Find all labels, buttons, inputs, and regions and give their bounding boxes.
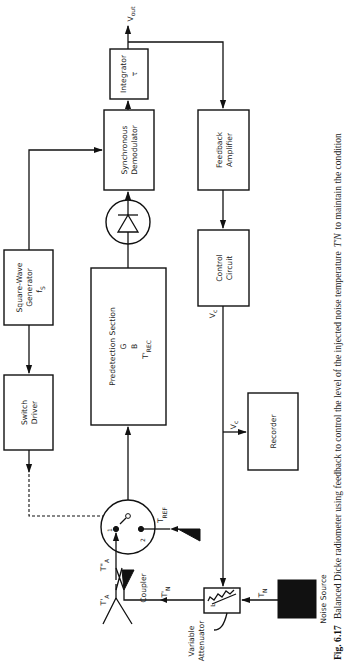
noise-source-label: Noise Source [319, 574, 328, 624]
integrator-label: Integrator [119, 54, 128, 93]
svg-text:Coupler: Coupler [139, 572, 148, 602]
switch-contact-1 [113, 526, 118, 531]
caption-tail: to maintain the condition [332, 133, 343, 229]
svg-text:TREF: TREF [156, 506, 168, 524]
svg-text:TN: TN [257, 588, 268, 598]
predetection-gain: G [119, 343, 128, 349]
demod-label-1: Synchronous [120, 125, 129, 174]
control-circuit-block: Control Circuit [198, 230, 249, 306]
integrator-tau: τ [130, 71, 139, 76]
sqwave-label-1: Square-Wave [15, 262, 24, 312]
svg-text:Vc: Vc [208, 310, 218, 319]
demod-label-2: Demodulator [130, 124, 139, 175]
tn-prime-label: T'N [160, 586, 171, 598]
ta-dprime-label: T"A [99, 558, 110, 572]
tn-label: TN [257, 588, 268, 598]
reference-load-icon [178, 529, 200, 541]
sqwave-label-2: Generator [25, 267, 34, 306]
driver-label-2: Driver [30, 400, 39, 424]
attenuator-pointer-curve [214, 613, 227, 630]
svg-text:Vc: Vc [229, 421, 239, 430]
predetection-section-block: Predetection Section G B T'REC [91, 268, 166, 425]
svg-text:Fig. 6.17Balanced Dicke radiom: Fig. 6.17Balanced Dicke radiometer using… [332, 133, 343, 660]
vout-label: Vout [126, 6, 136, 22]
feedback-label-1: Feedback [215, 131, 224, 168]
tref-label: TREF [156, 506, 168, 524]
reference-to-demod-wire [29, 150, 102, 250]
control-label-1: Control [215, 254, 224, 281]
variable-attenuator: L [204, 588, 240, 613]
feedback-label-2: Amplifier [225, 132, 234, 167]
attenuator-label: Variable Attenuator [187, 620, 206, 662]
switch-pos1-label: 1 [106, 528, 113, 532]
figure-caption: Fig. 6.17Balanced Dicke radiometer using… [332, 133, 343, 660]
feedback-amplifier-block: Feedback Amplifier [198, 110, 249, 190]
svg-text:T"A: T"A [99, 558, 110, 572]
caption-symbol: T'N [332, 233, 343, 247]
vc-label-control: Vc [208, 310, 218, 319]
dicke-switch: 1 2 [101, 500, 155, 554]
svg-text:T'A: T'A [99, 594, 110, 607]
noise-source-block [278, 580, 316, 618]
ta-prime-label: T'A [99, 594, 110, 607]
coupler-load-icon [122, 570, 134, 590]
driver-label-1: Switch [20, 400, 29, 425]
svg-text:Attenuator: Attenuator [197, 620, 206, 662]
square-wave-generator-block: Square-Wave Generator fS [4, 250, 53, 325]
switch-driver-block: Switch Driver [4, 375, 53, 450]
control-label-2: Circuit [225, 256, 234, 280]
svg-text:Variable: Variable [187, 625, 196, 656]
detector-diode [106, 200, 150, 244]
integrator-block: Integrator τ [110, 49, 148, 99]
svg-text:T'N: T'N [160, 586, 171, 598]
synchronous-demodulator-block: Synchronous Demodulator [104, 110, 154, 190]
recorder-label: Recorder [269, 414, 278, 449]
recorder-block: Recorder [248, 393, 298, 470]
switch-pivot [126, 514, 131, 519]
caption-text: Balanced Dicke radiometer using feedback… [332, 251, 343, 619]
svg-text:Vout: Vout [126, 6, 136, 22]
svg-text:Noise Source: Noise Source [319, 574, 328, 624]
predetection-bandwidth: B [130, 344, 139, 349]
tref-arrow [170, 526, 178, 532]
vc-label-recorder: Vc [229, 421, 239, 430]
predetection-label: Predetection Section [108, 307, 117, 386]
switch-pos2-label: 2 [139, 538, 146, 542]
figure-number: Fig. 6.17 [332, 625, 343, 660]
coupler-label: Coupler [139, 572, 148, 602]
dicke-radiometer-diagram: Integrator τ Synchronous Demodulator Fee… [0, 0, 347, 665]
